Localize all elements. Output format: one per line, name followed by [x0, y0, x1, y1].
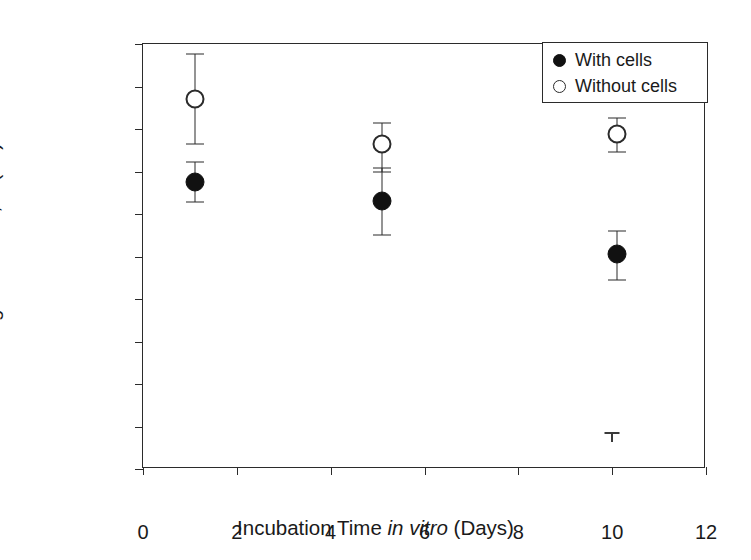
x-axis-title: Incubation Time in vitro (Days) — [0, 516, 751, 540]
x-tick — [237, 467, 238, 475]
stray-error-stem — [611, 433, 613, 442]
y-tick — [135, 299, 143, 300]
x-tick-label: 10 — [601, 522, 623, 542]
chart-figure: Young's Modulus, E (Pa) Incubation Time … — [0, 0, 751, 560]
y-tick — [135, 44, 143, 45]
y-tick — [135, 469, 143, 470]
x-tick — [331, 467, 332, 475]
legend-label-without-cells: Without cells — [575, 77, 677, 95]
x-tick-label: 12 — [695, 522, 717, 542]
y-tick — [135, 87, 143, 88]
y-tick — [135, 384, 143, 385]
y-tick — [135, 172, 143, 173]
legend-item-with-cells: With cells — [553, 47, 707, 73]
x-axis-title-italic: in vitro — [387, 516, 447, 539]
x-tick — [612, 467, 613, 475]
x-tick-label: 4 — [325, 522, 336, 542]
x-tick-label: 2 — [231, 522, 242, 542]
legend-item-without-cells: Without cells — [553, 73, 707, 99]
legend-label-with-cells: With cells — [575, 51, 652, 69]
y-tick — [135, 214, 143, 215]
y-tick — [135, 342, 143, 343]
y-axis-title: Young's Modulus, E (Pa) — [0, 143, 4, 367]
y-tick — [135, 427, 143, 428]
x-tick-label: 0 — [137, 522, 148, 542]
x-axis-title-pre: Incubation Time — [237, 516, 387, 539]
chart-legend: With cells Without cells — [542, 42, 708, 103]
x-tick — [518, 467, 519, 475]
x-tick — [143, 467, 144, 475]
filled-circle-icon — [553, 54, 566, 67]
x-tick — [706, 467, 707, 475]
x-tick-label: 8 — [513, 522, 524, 542]
x-tick-label: 6 — [419, 522, 430, 542]
x-axis-title-post: (Days) — [448, 516, 514, 539]
plot-area: 01,0002,0003,0004,0005,0006,0007,0008,00… — [142, 43, 705, 468]
x-tick — [425, 467, 426, 475]
open-circle-icon — [553, 80, 566, 93]
y-tick — [135, 257, 143, 258]
annotation-layer — [143, 44, 704, 467]
y-tick — [135, 129, 143, 130]
